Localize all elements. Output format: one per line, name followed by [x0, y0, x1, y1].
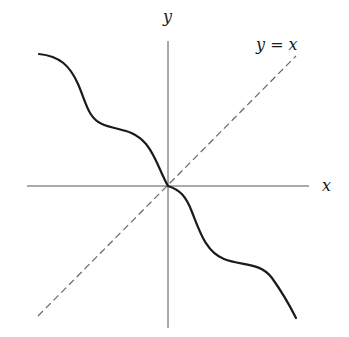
y-axis-label: y	[162, 7, 173, 26]
function-diagram: y x y = x	[0, 0, 349, 337]
x-axis-label: x	[322, 176, 331, 195]
identity-line-label: y = x	[255, 35, 298, 54]
